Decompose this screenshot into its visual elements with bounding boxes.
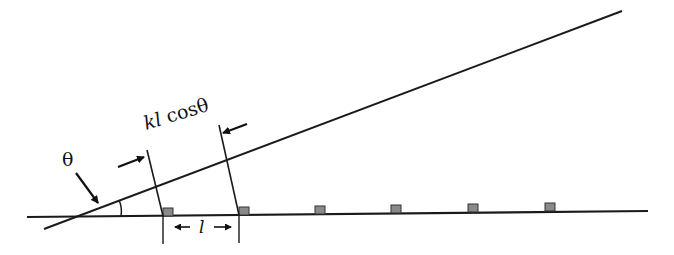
projection-line-2 — [219, 125, 239, 215]
incident-line — [44, 11, 622, 229]
array-baseline — [27, 211, 648, 217]
angle-label: θ — [62, 148, 73, 170]
angle-arc — [119, 200, 121, 216]
projection-arrow-left — [118, 157, 144, 167]
projection-label: kl cosθ — [141, 93, 211, 134]
array-element — [468, 204, 478, 212]
array-element — [239, 207, 249, 215]
array-element — [163, 208, 173, 216]
diffraction-diagram: l kl cosθ θ — [0, 0, 674, 255]
array-element — [391, 205, 401, 213]
array-element — [545, 203, 555, 211]
array-element — [315, 206, 325, 214]
angle-pointer-arrow — [76, 173, 98, 203]
spacing-label: l — [199, 217, 204, 237]
projection-arrow-right — [223, 124, 247, 133]
projection-line-1 — [147, 150, 163, 216]
